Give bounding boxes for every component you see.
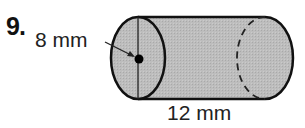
cylinder-figure: [0, 0, 305, 128]
center-point: [135, 55, 144, 64]
